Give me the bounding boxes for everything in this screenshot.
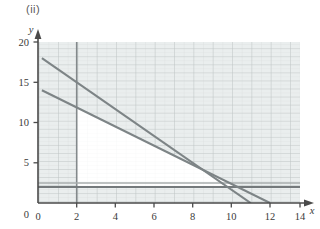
x-tick-label-10: 10 — [226, 211, 237, 222]
part-label: (ii) — [26, 3, 40, 15]
y-axis-label: y — [28, 24, 34, 35]
graph-figure: (ii) — [0, 0, 320, 229]
x-tick-labels: 0 2 4 6 8 10 12 14 — [35, 211, 306, 222]
coordinate-plot: 0 2 4 6 8 10 12 14 0 5 10 15 20 y x — [0, 0, 320, 229]
y-tick-label-10: 10 — [19, 117, 30, 128]
x-tick-label-6: 6 — [151, 211, 156, 222]
x-tick-label-0: 0 — [35, 211, 40, 222]
y-axis-arrow — [35, 29, 42, 39]
y-tick-label-15: 15 — [19, 77, 30, 88]
y-tick-label-5: 5 — [24, 157, 29, 168]
x-tick-label-2: 2 — [74, 211, 79, 222]
x-tick-label-12: 12 — [265, 211, 276, 222]
x-tick-label-8: 8 — [190, 211, 195, 222]
y-tick-labels: 0 5 10 15 20 — [19, 37, 30, 221]
x-tick-label-4: 4 — [113, 211, 119, 222]
x-axis-label: x — [309, 205, 315, 216]
x-tick-label-14: 14 — [295, 211, 306, 222]
y-tick-label-20: 20 — [19, 37, 30, 48]
y-tick-label-0: 0 — [24, 209, 29, 220]
